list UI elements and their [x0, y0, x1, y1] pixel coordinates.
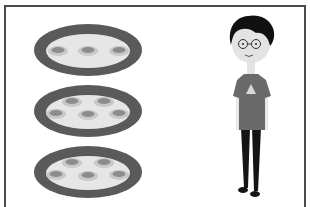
- food-item-center: [113, 171, 126, 177]
- food-item-center: [113, 47, 126, 53]
- food-item-center: [98, 159, 111, 165]
- food-item-center: [66, 159, 79, 165]
- food-item-center: [98, 98, 111, 104]
- food-item-center: [66, 98, 79, 104]
- person: [230, 15, 274, 197]
- food-item-center: [82, 111, 95, 117]
- food-item-center: [82, 47, 95, 53]
- food-item-center: [82, 172, 95, 178]
- right-shoe: [250, 191, 260, 197]
- food-item-center: [50, 171, 63, 177]
- left-eye: [242, 43, 244, 45]
- illustration: [0, 0, 310, 207]
- left-leg: [241, 128, 250, 188]
- left-shoe: [238, 187, 248, 193]
- right-leg: [252, 128, 261, 191]
- plate-3: [34, 146, 142, 198]
- food-item-center: [50, 110, 63, 116]
- plates-group: [34, 24, 142, 198]
- plate-2: [34, 85, 142, 137]
- right-eye: [255, 43, 257, 45]
- food-item-center: [113, 110, 126, 116]
- food-item-center: [52, 47, 65, 53]
- plate-1: [34, 24, 142, 76]
